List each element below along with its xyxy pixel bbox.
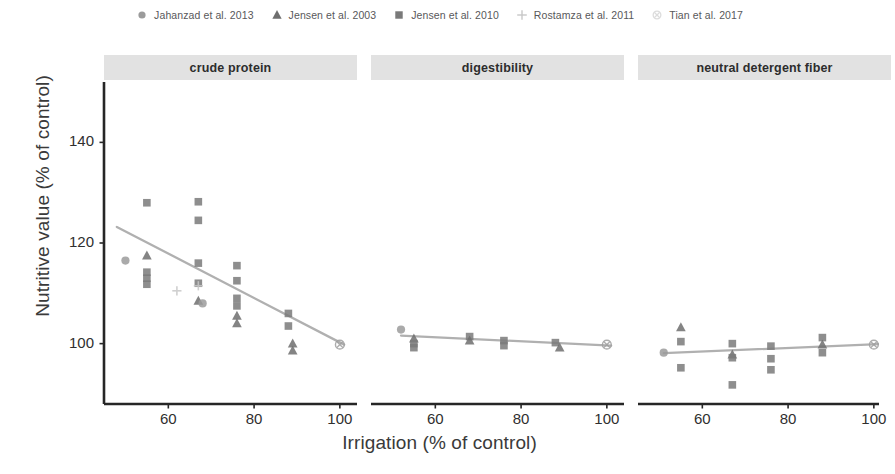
data-point — [660, 349, 668, 357]
data-point — [552, 339, 560, 347]
panel-0 — [104, 198, 357, 409]
x-tick-label: 60 — [680, 410, 724, 427]
x-tick-label: 60 — [413, 410, 457, 427]
data-point — [676, 322, 686, 331]
data-point — [143, 280, 151, 288]
data-point — [143, 199, 151, 207]
x-tick-label: 100 — [318, 410, 362, 427]
data-point — [195, 198, 203, 206]
data-point — [233, 302, 241, 310]
x-tick-label: 60 — [146, 410, 190, 427]
data-point — [233, 295, 241, 303]
x-tick-label: 100 — [852, 410, 895, 427]
panel-1 — [371, 325, 624, 408]
data-point — [819, 349, 827, 357]
y-tick-label: 140 — [52, 132, 94, 149]
data-point — [285, 310, 293, 318]
data-point — [233, 277, 241, 285]
y-axis-title: Nutritive value (% of control) — [32, 46, 54, 346]
panel-2 — [638, 322, 879, 408]
data-point — [767, 355, 775, 363]
data-point — [729, 354, 737, 362]
x-tick-label: 80 — [766, 410, 810, 427]
data-point — [500, 342, 508, 350]
data-point — [397, 325, 405, 333]
y-axis — [100, 82, 105, 404]
y-tick-label: 120 — [52, 233, 94, 250]
data-point — [121, 257, 129, 265]
trend-line — [117, 227, 344, 345]
data-point — [767, 342, 775, 350]
data-point — [410, 344, 418, 352]
data-point — [195, 259, 203, 267]
data-point — [195, 217, 203, 225]
data-point — [199, 299, 207, 307]
x-axis-title: Irrigation (% of control) — [0, 432, 879, 454]
y-tick-label: 100 — [52, 334, 94, 351]
data-point — [233, 262, 241, 270]
data-point — [729, 381, 737, 389]
data-point — [677, 338, 685, 346]
data-point — [729, 340, 737, 348]
x-tick-label: 80 — [232, 410, 276, 427]
data-point — [142, 250, 152, 259]
data-point — [677, 364, 685, 372]
data-point — [285, 322, 293, 330]
data-point — [767, 366, 775, 374]
data-point — [172, 286, 181, 295]
x-tick-label: 100 — [585, 410, 629, 427]
x-tick-label: 80 — [499, 410, 543, 427]
